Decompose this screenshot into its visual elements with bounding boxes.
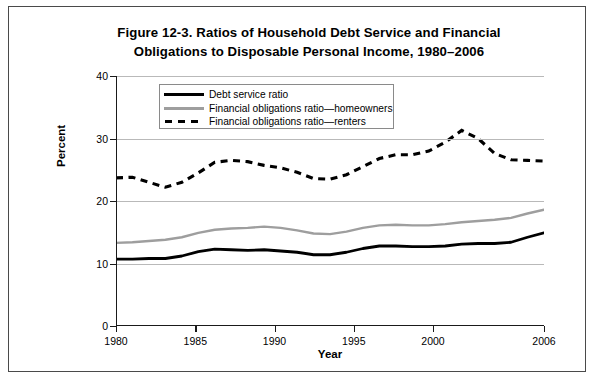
x-tick-2000 bbox=[433, 326, 434, 332]
figure-frame: Figure 12-3. Ratios of Household Debt Se… bbox=[8, 6, 586, 372]
x-tick-1995 bbox=[354, 326, 355, 332]
x-tick-label-2000: 2000 bbox=[408, 335, 458, 347]
legend-item-homeowners: Financial obligations ratio—homeowners bbox=[164, 102, 389, 116]
x-tick-label-1985: 1985 bbox=[170, 335, 220, 347]
x-tick-2006 bbox=[544, 326, 545, 332]
x-tick-label-1980: 1980 bbox=[91, 335, 141, 347]
legend-key-solid-black-line bbox=[164, 89, 204, 100]
legend-label-debt-service: Debt service ratio bbox=[209, 89, 288, 100]
legend-item-debt-service: Debt service ratio bbox=[164, 88, 389, 102]
legend-key-dashed-black-line bbox=[164, 116, 204, 127]
x-tick-1985 bbox=[195, 326, 196, 332]
figure-title-line-2: Obligations to Disposable Personal Incom… bbox=[69, 42, 549, 61]
y-axis-label: Percent bbox=[55, 125, 67, 167]
chart-legend: Debt service ratio Financial obligations… bbox=[159, 84, 394, 129]
y-tick-label-30: 30 bbox=[76, 134, 108, 144]
y-tick-label-40: 40 bbox=[76, 71, 108, 81]
y-tick-label-20: 20 bbox=[76, 196, 108, 206]
x-tick-label-1990: 1990 bbox=[250, 335, 300, 347]
y-tick-label-0: 0 bbox=[76, 321, 108, 331]
y-tick-label-10: 10 bbox=[76, 259, 108, 269]
x-tick-label-2006: 2006 bbox=[519, 335, 569, 347]
x-tick-1990 bbox=[275, 326, 276, 332]
legend-label-renters: Financial obligations ratio—renters bbox=[209, 116, 366, 127]
legend-label-homeowners: Financial obligations ratio—homeowners bbox=[209, 103, 392, 114]
legend-item-renters: Financial obligations ratio—renters bbox=[164, 115, 389, 129]
x-tick-label-1995: 1995 bbox=[329, 335, 379, 347]
figure-title: Figure 12-3. Ratios of Household Debt Se… bbox=[69, 23, 549, 61]
figure-title-line-1: Figure 12-3. Ratios of Household Debt Se… bbox=[69, 23, 549, 42]
x-axis-label: Year bbox=[116, 348, 544, 360]
legend-key-solid-gray-line bbox=[164, 103, 204, 114]
x-tick-1980 bbox=[116, 326, 117, 332]
